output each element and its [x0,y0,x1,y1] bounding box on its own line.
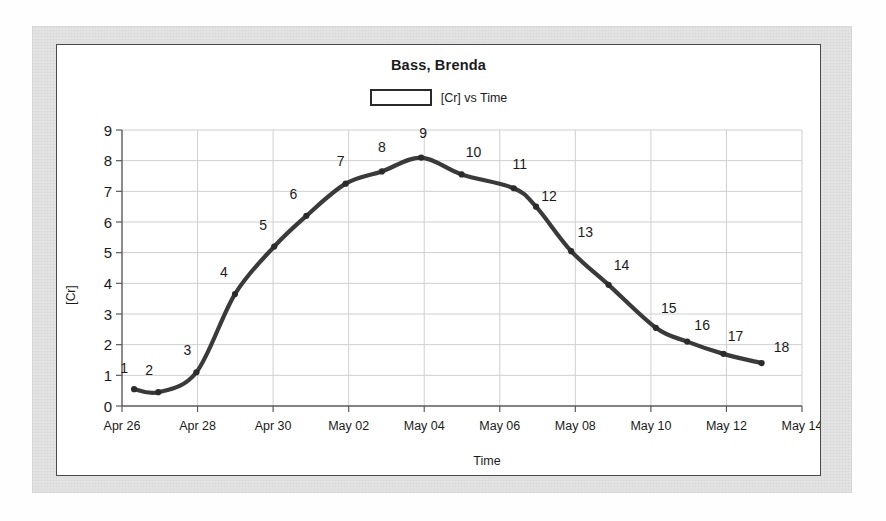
data-point-marker [605,282,611,288]
data-point-marker [193,369,199,375]
chart-figure: Bass, Brenda [Cr] vs Time 0123456789 Apr… [56,44,821,476]
data-point-label: 14 [614,257,630,273]
y-tick-label: 3 [104,306,112,323]
data-point-marker [418,155,424,161]
y-tick-label: 0 [104,398,112,415]
y-axis-title: [Cr] [64,285,78,304]
data-line-group [134,158,761,393]
data-point-label: 11 [512,156,527,172]
data-point-marker [720,351,726,357]
x-tick-label: May 04 [404,419,445,433]
data-point-marker [684,339,690,345]
data-point-marker [343,181,349,187]
data-point-marker [131,386,137,392]
x-tick-labels-group: Apr 26Apr 28Apr 30May 02May 04May 06May … [104,419,820,433]
screenshot-page: Bass, Brenda [Cr] vs Time 0123456789 Apr… [0,0,886,521]
data-point-label: 8 [378,139,386,155]
x-tick-label: May 10 [630,419,671,433]
data-point-marker [232,291,238,297]
x-tick-label: May 14 [782,419,821,433]
data-point-marker [653,325,659,331]
x-axis-title: Time [473,454,500,468]
data-point-marker [155,389,161,395]
data-series-line [134,158,761,393]
data-point-marker [568,248,574,254]
x-tick-label: Apr 30 [255,419,292,433]
data-point-label: 16 [694,317,710,333]
x-tick-label: May 02 [328,419,369,433]
data-point-label: 7 [337,153,345,169]
data-point-label: 10 [466,144,482,160]
x-tick-label: Apr 26 [104,419,141,433]
y-tick-labels-group: 0123456789 [104,122,112,415]
data-point-marker [459,171,465,177]
data-point-marker [758,360,764,366]
data-point-marker [271,243,277,249]
data-point-marker [511,185,517,191]
x-tick-label: Apr 28 [179,419,216,433]
y-tick-label: 4 [104,275,112,292]
data-point-label: 3 [184,342,192,358]
y-tick-label: 7 [104,183,112,200]
y-tick-label: 5 [104,244,112,261]
x-tick-label: May 08 [555,419,596,433]
data-point-label: 4 [220,264,228,280]
data-point-label: 17 [728,328,744,344]
data-point-label: 5 [259,217,267,233]
plot-area: 0123456789 Apr 26Apr 28Apr 30May 02May 0… [57,45,820,475]
x-tickmarks-group [122,406,802,412]
data-point-label: 1 [120,360,128,376]
y-tick-label: 6 [104,214,112,231]
data-point-marker [379,168,385,174]
data-point-label: 9 [419,125,427,141]
x-tick-label: May 12 [706,419,747,433]
y-tick-label: 8 [104,152,112,169]
data-point-marker [533,204,539,210]
y-tick-label: 2 [104,336,112,353]
y-tick-label: 1 [104,367,112,384]
data-point-label: 12 [541,188,557,204]
y-tick-label: 9 [104,122,112,139]
x-tick-label: May 06 [479,419,520,433]
data-point-label: 15 [661,300,677,316]
data-point-label: 13 [577,224,593,240]
data-point-label: 2 [145,362,153,378]
data-point-label: 18 [774,339,790,355]
data-point-marker [303,213,309,219]
data-point-label: 6 [289,186,297,202]
